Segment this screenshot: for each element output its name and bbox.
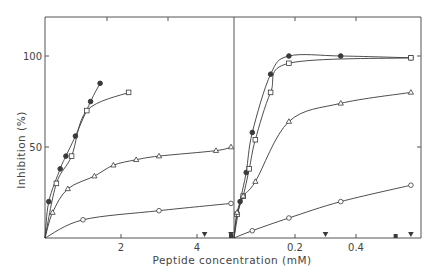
right-open-square-line — [234, 58, 411, 238]
right-filled-circle-marker-icon — [287, 54, 292, 59]
left-open-circle-marker-icon — [229, 201, 234, 206]
left-filled-circle-marker-icon — [88, 99, 93, 104]
y-axis-title: Inhibition (%) — [15, 111, 27, 189]
right-x-tick-0.2: 0.2 — [287, 242, 303, 253]
left-inactive-square-marker-icon — [229, 234, 233, 238]
right-open-triangle-marker-icon — [408, 90, 413, 95]
left-open-square-marker-icon — [126, 90, 131, 95]
right-open-triangle-marker-icon — [253, 179, 258, 184]
right-panel-plot — [234, 54, 414, 238]
left-open-circle-marker-icon — [157, 208, 162, 213]
right-open-square-marker-icon — [253, 137, 258, 142]
right-filled-circle-line — [234, 55, 411, 238]
left-open-circle-marker-icon — [81, 218, 86, 223]
y-tick-50: 50 — [29, 142, 42, 153]
right-open-square-marker-icon — [247, 167, 252, 172]
right-open-circle-line — [234, 185, 411, 238]
right-inactive-triangle-down-marker-icon — [408, 232, 414, 237]
right-open-square-marker-icon — [268, 90, 273, 95]
right-open-circle-marker-icon — [409, 183, 414, 188]
right-open-circle-marker-icon — [287, 216, 292, 221]
chart: 100 50 2 4 0.2 0.4 Peptide concentration… — [0, 0, 439, 272]
left-filled-circle-marker-icon — [58, 167, 63, 172]
left-open-triangle-marker-icon — [65, 186, 70, 191]
right-open-square-marker-icon — [409, 56, 414, 61]
right-open-square-marker-icon — [287, 61, 292, 66]
left-open-square-marker-icon — [54, 181, 59, 186]
left-panel-plot — [45, 81, 234, 238]
left-open-triangle-marker-icon — [50, 210, 55, 215]
x-axis-title: Peptide concentration (mM) — [152, 254, 311, 266]
right-inactive-square-marker-icon — [394, 234, 398, 238]
right-x-tick-0.4: 0.4 — [348, 242, 364, 253]
left-open-square-line — [45, 92, 129, 238]
right-open-triangle-line — [234, 92, 411, 238]
left-filled-circle-marker-icon — [64, 154, 69, 159]
left-open-square-marker-icon — [69, 154, 74, 159]
left-filled-circle-marker-icon — [98, 81, 103, 86]
right-filled-circle-marker-icon — [268, 72, 273, 77]
left-open-triangle-marker-icon — [228, 144, 233, 149]
left-open-square-marker-icon — [85, 108, 90, 113]
left-x-tick-4: 4 — [194, 242, 200, 253]
right-open-circle-marker-icon — [338, 199, 343, 204]
left-inactive-triangle-down-marker-icon — [202, 232, 208, 237]
right-inactive-triangle-down-marker-icon — [323, 232, 329, 237]
left-x-tick-2: 2 — [118, 242, 124, 253]
right-open-circle-marker-icon — [250, 228, 255, 233]
right-filled-circle-marker-icon — [338, 54, 343, 59]
y-tick-100: 100 — [23, 51, 42, 62]
right-filled-circle-marker-icon — [250, 130, 255, 135]
left-filled-circle-marker-icon — [47, 199, 52, 204]
